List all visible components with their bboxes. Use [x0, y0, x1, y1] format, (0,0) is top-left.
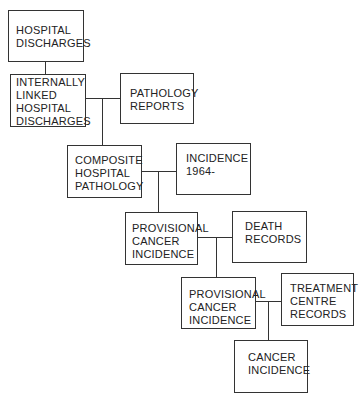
node-incidence-1964: INCIDENCE 1964- [176, 143, 251, 195]
node-hospital-discharges: HOSPITAL DISCHARGES [8, 10, 84, 62]
node-label: COMPOSITE HOSPITAL PATHOLOGY [75, 154, 144, 193]
node-label: INCIDENCE 1964- [186, 152, 248, 178]
node-pathology-reports: PATHOLOGY REPORTS [120, 73, 194, 124]
node-label: HOSPITAL DISCHARGES [16, 24, 91, 50]
node-provisional-cancer-incidence-1: PROVISIONAL CANCER INCIDENCE [125, 212, 198, 265]
connector [102, 98, 103, 145]
node-label: DEATH RECORDS [245, 220, 301, 246]
node-treatment-centre-records: TREATMENT CENTRE RECORDS [281, 273, 354, 326]
node-death-records: DEATH RECORDS [232, 211, 307, 263]
connector [158, 171, 159, 212]
node-label: INTERNALLY LINKED HOSPITAL DISCHARGES [16, 76, 91, 128]
node-provisional-cancer-incidence-2: PROVISIONAL CANCER INCIDENCE [181, 277, 256, 329]
node-label: PROVISIONAL CANCER INCIDENCE [189, 288, 266, 327]
connector [268, 301, 269, 340]
node-internally-linked-hospital-discharges: INTERNALLY LINKED HOSPITAL DISCHARGES [10, 74, 86, 127]
connector [216, 237, 217, 277]
node-label: CANCER INCIDENCE [248, 351, 310, 377]
node-label: TREATMENT CENTRE RECORDS [290, 282, 358, 321]
node-label: PROVISIONAL CANCER INCIDENCE [132, 222, 209, 261]
node-composite-hospital-pathology: COMPOSITE HOSPITAL PATHOLOGY [67, 145, 142, 198]
connector [45, 61, 46, 74]
node-label: PATHOLOGY REPORTS [130, 87, 199, 113]
node-cancer-incidence: CANCER INCIDENCE [234, 340, 308, 393]
